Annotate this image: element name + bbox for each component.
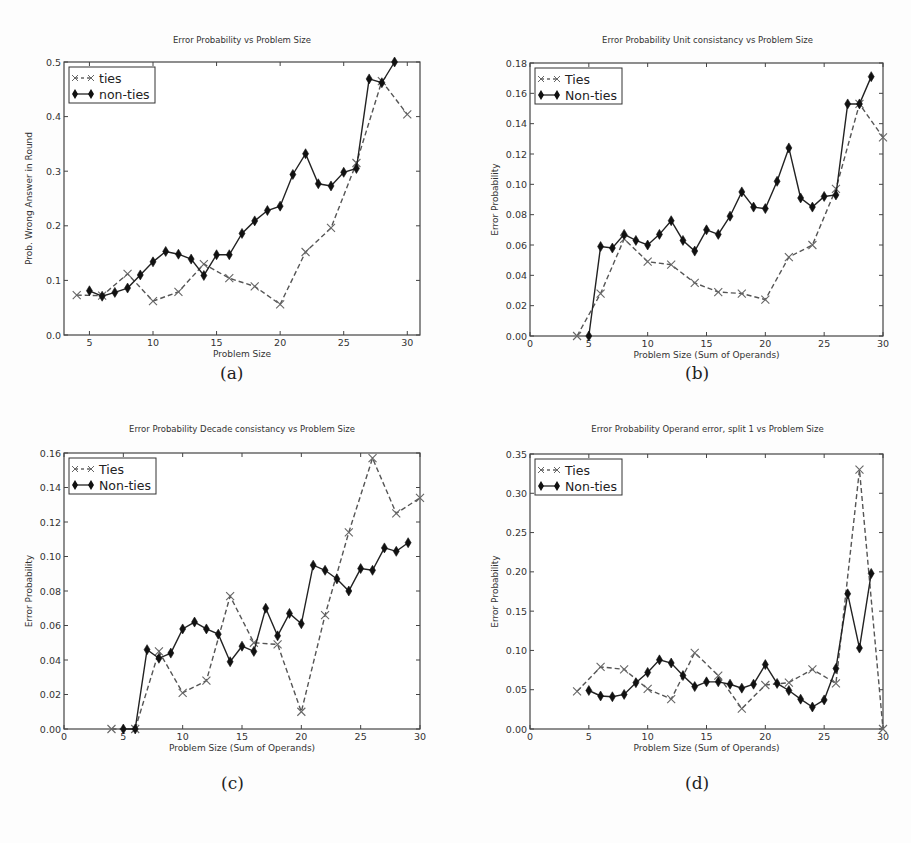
x-tick-label: 25 xyxy=(355,731,367,742)
x-axis-label: Problem Size (Sum of Operands) xyxy=(633,350,779,360)
y-tick-label: 0.10 xyxy=(506,645,527,656)
legend-label: Non-ties xyxy=(565,88,617,103)
legend-label: Ties xyxy=(98,462,124,477)
x-tick-label: 0 xyxy=(61,731,67,742)
y-tick-label: 0.04 xyxy=(40,655,61,666)
legend-label: Ties xyxy=(564,463,590,478)
caption-c: (c) xyxy=(221,773,244,793)
caption-b: (b) xyxy=(685,363,709,383)
legend-label: ties xyxy=(99,71,122,86)
y-tick-label: 0.00 xyxy=(40,724,61,735)
y-tick-label: 0.30 xyxy=(506,488,527,499)
y-tick-label: 0.4 xyxy=(46,111,61,122)
y-axis-label: Error Probability xyxy=(24,554,34,627)
y-tick-label: 0.16 xyxy=(40,448,61,459)
x-tick-label: 10 xyxy=(642,338,654,349)
legend: TiesNon-ties xyxy=(535,68,622,104)
y-tick-label: 0.02 xyxy=(506,300,527,311)
legend-label: Non-ties xyxy=(565,479,617,494)
y-tick-label: 0.20 xyxy=(506,566,527,577)
caption-a: (a) xyxy=(220,363,243,383)
y-tick-label: 0.15 xyxy=(506,606,527,617)
chart-panel-d: Error Probability Operand error, split 1… xyxy=(455,410,911,843)
plot-a: 51015202530Problem Size0.00.10.20.30.40.… xyxy=(0,0,455,360)
x-tick-label: 10 xyxy=(177,731,189,742)
x-tick-label: 5 xyxy=(86,337,92,348)
x-tick-label: 25 xyxy=(338,337,350,348)
x-tick-label: 5 xyxy=(586,731,592,742)
y-tick-label: 0.05 xyxy=(506,684,527,695)
chart-panel-a: Error Probability vs Problem Size 510152… xyxy=(0,0,455,410)
y-tick-label: 0.1 xyxy=(46,275,61,286)
x-tick-label: 15 xyxy=(700,731,712,742)
x-tick-label: 20 xyxy=(759,338,771,349)
x-tick-label: 20 xyxy=(295,731,307,742)
x-tick-label: 10 xyxy=(642,731,654,742)
x-tick-label: 0 xyxy=(527,731,533,742)
x-tick-label: 25 xyxy=(818,338,830,349)
y-axis-label: Error Probability xyxy=(490,163,500,236)
plot-d: 051015202530Problem Size (Sum of Operand… xyxy=(455,410,911,770)
x-tick-label: 30 xyxy=(414,731,426,742)
legend-label: non-ties xyxy=(99,87,150,102)
y-tick-label: 0.00 xyxy=(506,724,527,735)
y-tick-label: 0.00 xyxy=(506,331,527,342)
y-tick-label: 0.04 xyxy=(506,270,527,281)
y-tick-label: 0.0 xyxy=(46,330,61,341)
legend-label: Ties xyxy=(564,72,590,87)
y-tick-label: 0.18 xyxy=(506,58,527,69)
y-tick-label: 0.12 xyxy=(506,149,527,160)
legend: tiesnon-ties xyxy=(69,67,155,103)
x-tick-label: 25 xyxy=(818,731,830,742)
x-tick-label: 30 xyxy=(877,338,889,349)
x-tick-label: 30 xyxy=(401,337,413,348)
legend: TiesNon-ties xyxy=(69,458,156,494)
y-tick-label: 0.5 xyxy=(46,57,61,68)
y-tick-label: 0.14 xyxy=(40,482,61,493)
y-tick-label: 0.2 xyxy=(46,220,61,231)
chart-panel-b: Error Probability Unit consistancy vs Pr… xyxy=(455,0,911,410)
x-tick-label: 20 xyxy=(274,337,286,348)
y-tick-label: 0.35 xyxy=(506,449,527,460)
x-axis-label: Problem Size (Sum of Operands) xyxy=(633,743,779,753)
y-tick-label: 0.06 xyxy=(40,620,61,631)
y-tick-label: 0.02 xyxy=(40,689,61,700)
y-tick-label: 0.3 xyxy=(46,166,61,177)
y-tick-label: 0.16 xyxy=(506,88,527,99)
caption-d: (d) xyxy=(685,773,709,793)
y-tick-label: 0.08 xyxy=(40,586,61,597)
x-tick-label: 15 xyxy=(236,731,248,742)
y-tick-label: 0.12 xyxy=(40,517,61,528)
legend-label: Non-ties xyxy=(99,478,151,493)
y-axis-label: Error Probability xyxy=(490,555,500,628)
plot-b: 051015202530Problem Size (Sum of Operand… xyxy=(455,0,911,360)
legend: TiesNon-ties xyxy=(535,459,622,495)
y-axis-label: Prob. Wrong Answer in Round xyxy=(24,132,34,265)
y-tick-label: 0.06 xyxy=(506,240,527,251)
x-tick-label: 15 xyxy=(700,338,712,349)
x-axis-label: Problem Size xyxy=(213,349,272,359)
x-tick-label: 20 xyxy=(759,731,771,742)
x-tick-label: 10 xyxy=(147,337,159,348)
chart-panel-c: Error Probability Decade consistancy vs … xyxy=(0,410,455,843)
x-tick-label: 0 xyxy=(527,338,533,349)
y-tick-label: 0.25 xyxy=(506,527,527,538)
x-tick-label: 15 xyxy=(211,337,223,348)
y-tick-label: 0.14 xyxy=(506,118,527,129)
plot-c: 051015202530Problem Size (Sum of Operand… xyxy=(0,410,455,770)
y-tick-label: 0.08 xyxy=(506,209,527,220)
x-axis-label: Problem Size (Sum of Operands) xyxy=(169,743,315,753)
y-tick-label: 0.10 xyxy=(506,179,527,190)
y-tick-label: 0.10 xyxy=(40,551,61,562)
